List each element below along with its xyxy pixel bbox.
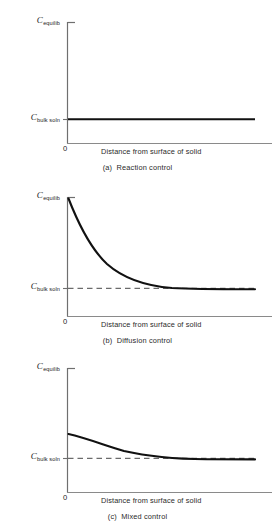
panel-b-curve-diffusion-control (69, 199, 256, 290)
panel-b-label-c-bulk: Cbulk soln (0, 281, 60, 292)
panel-b-x-axis-label: Distance from surface of solid (101, 320, 201, 329)
panel-c-cbulk-symbol: C (31, 451, 37, 461)
panel-b-label-c-equilib: Cequilib (4, 190, 60, 201)
panel-a-label-c-equilib: Cequilib (4, 15, 60, 26)
panel-c-label-c-bulk: Cbulk soln (0, 451, 60, 462)
panel-c-c-symbol: C (37, 361, 43, 371)
panel-b-c-symbol: C (37, 190, 43, 200)
panel-c-curve-mixed-control (69, 434, 256, 459)
panel-c-cbulk-subscript: bulk soln (37, 456, 60, 462)
panel-a-origin-label: 0 (63, 144, 67, 153)
panel-c-label-c-equilib: Cequilib (4, 361, 60, 372)
panel-b-cbulk-symbol: C (31, 281, 37, 291)
panel-c-mixed-control: Cequilib Cbulk soln 0 Distance from surf… (0, 352, 275, 529)
panel-a-x-axis-label: Distance from surface of solid (101, 147, 201, 156)
panel-c-c-subscript: equilib (43, 366, 60, 372)
panel-b-c-subscript: equilib (43, 195, 60, 201)
concentration-profile-figure: Cequilib Cbulk soln 0 Distance from surf… (0, 0, 275, 529)
panel-b-caption: (b) Diffusion control (0, 336, 275, 345)
panel-a-reaction-control: Cequilib Cbulk soln 0 Distance from surf… (0, 0, 275, 176)
panel-c-origin-label: 0 (63, 493, 67, 502)
panel-a-cbulk-symbol: C (31, 112, 37, 122)
panel-c-x-axis-label: Distance from surface of solid (101, 496, 201, 505)
panel-a-cbulk-subscript: bulk soln (37, 117, 60, 123)
panel-c-caption: (c) Mixed control (0, 512, 275, 521)
panel-a-label-c-bulk: Cbulk soln (0, 112, 60, 123)
panel-b-origin-label: 0 (63, 317, 67, 326)
panel-b-diffusion-control: Cequilib Cbulk soln 0 Distance from surf… (0, 176, 275, 352)
panel-a-c-subscript: equilib (43, 20, 60, 26)
panel-b-cbulk-subscript: bulk soln (37, 286, 60, 292)
panel-a-c-symbol: C (37, 15, 43, 25)
panel-a-caption: (a) Reaction control (0, 163, 275, 172)
